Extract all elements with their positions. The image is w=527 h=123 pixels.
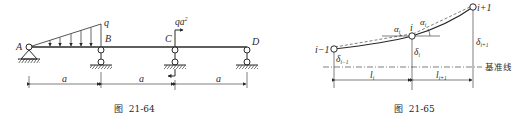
node-label-curr: i	[410, 22, 413, 33]
length-label-right: li+1	[436, 70, 447, 81]
point-label-A: A	[15, 41, 23, 52]
deflection-label-next: δi+1	[476, 37, 489, 48]
figure-21-65: i−1 i i+1 αi αi δi−1 δi δi+1 基准线 li li+1…	[315, 2, 512, 114]
length-label-left: li	[370, 70, 375, 81]
figure-caption-21-65: 图 21-65	[394, 104, 435, 114]
node-label-next: i+1	[477, 2, 492, 13]
moment-label: qa2	[175, 16, 188, 27]
datum-label: 基准线	[485, 62, 512, 72]
distributed-load	[29, 24, 101, 47]
span-label-BC: a	[139, 73, 144, 84]
span-label-CD: a	[216, 73, 221, 84]
roller-support-B	[90, 47, 112, 69]
figure-caption-21-64: 图 21-64	[114, 104, 155, 114]
node-i	[409, 33, 415, 39]
roller-support-D	[236, 47, 258, 69]
angle-label-left: αi	[394, 24, 401, 35]
span-label-AB: a	[62, 73, 67, 84]
node-i-plus-1	[470, 4, 476, 10]
deflection-label-curr: δi	[414, 47, 420, 58]
load-label-q: q	[104, 17, 109, 28]
angle-label-right: αi	[420, 17, 427, 28]
deflection-label-prev: δi−1	[336, 54, 349, 65]
figures-canvas: q A B	[0, 0, 527, 123]
node-i-minus-1	[331, 46, 337, 52]
point-label-D: D	[251, 36, 260, 47]
figure-21-64: q A B	[15, 16, 260, 114]
point-label-B: B	[105, 33, 111, 44]
deflection-curve	[334, 7, 473, 49]
point-label-C: C	[165, 33, 172, 44]
node-label-prev: i−1	[315, 44, 330, 55]
roller-support-C	[164, 47, 186, 69]
